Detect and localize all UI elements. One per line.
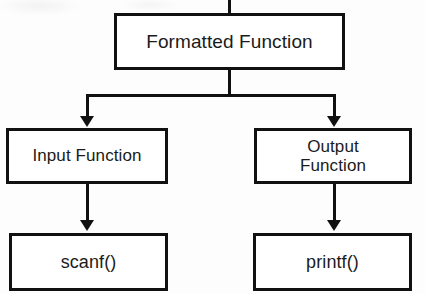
node-formatted-function-label: Formatted Function: [142, 31, 317, 52]
edge-root-to-input-arrowhead: [80, 116, 94, 127]
node-printf-label: printf(): [302, 252, 363, 272]
node-input-function[interactable]: Input Function: [6, 128, 168, 184]
edge-root-to-input-stem: [86, 94, 89, 118]
edge-root-stem: [228, 70, 231, 97]
edge-split-bar: [86, 94, 336, 97]
node-output-function[interactable]: Output Function: [254, 128, 412, 184]
diagram-canvas: Formatted Function Input Function Output…: [0, 0, 425, 294]
node-scanf[interactable]: scanf(): [9, 233, 168, 291]
edge-input-to-scanf-stem: [86, 184, 89, 222]
edge-stub-into-root: [228, 0, 231, 14]
edge-output-to-printf-arrowhead: [327, 220, 341, 231]
edge-output-to-printf-stem: [333, 184, 336, 222]
node-formatted-function[interactable]: Formatted Function: [114, 13, 345, 70]
node-scanf-label: scanf(): [57, 252, 121, 272]
node-output-function-label: Output Function: [296, 137, 370, 175]
edge-input-to-scanf-arrowhead: [80, 220, 94, 231]
node-printf[interactable]: printf(): [253, 233, 412, 291]
edge-root-to-output-arrowhead: [327, 116, 341, 127]
edge-root-to-output-stem: [333, 94, 336, 118]
node-input-function-label: Input Function: [28, 146, 145, 165]
